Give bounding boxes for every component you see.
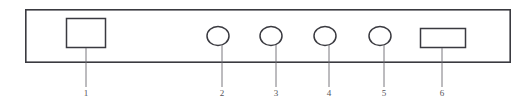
callout-label-4: 4 (321, 88, 337, 98)
device-panel-diagram: 1 2 3 4 5 6 (0, 0, 531, 109)
callout-label-3: 3 (268, 88, 284, 98)
callout-label-5: 5 (376, 88, 392, 98)
display-window (67, 19, 106, 48)
callout-label-2: 2 (214, 88, 230, 98)
control-knob-1 (207, 26, 229, 45)
callout-label-1: 1 (78, 88, 94, 98)
callout-label-6: 6 (434, 88, 450, 98)
control-knob-2 (260, 26, 282, 45)
indicator-panel (421, 29, 466, 48)
control-knob-3 (314, 26, 336, 45)
control-knob-4 (369, 26, 391, 45)
